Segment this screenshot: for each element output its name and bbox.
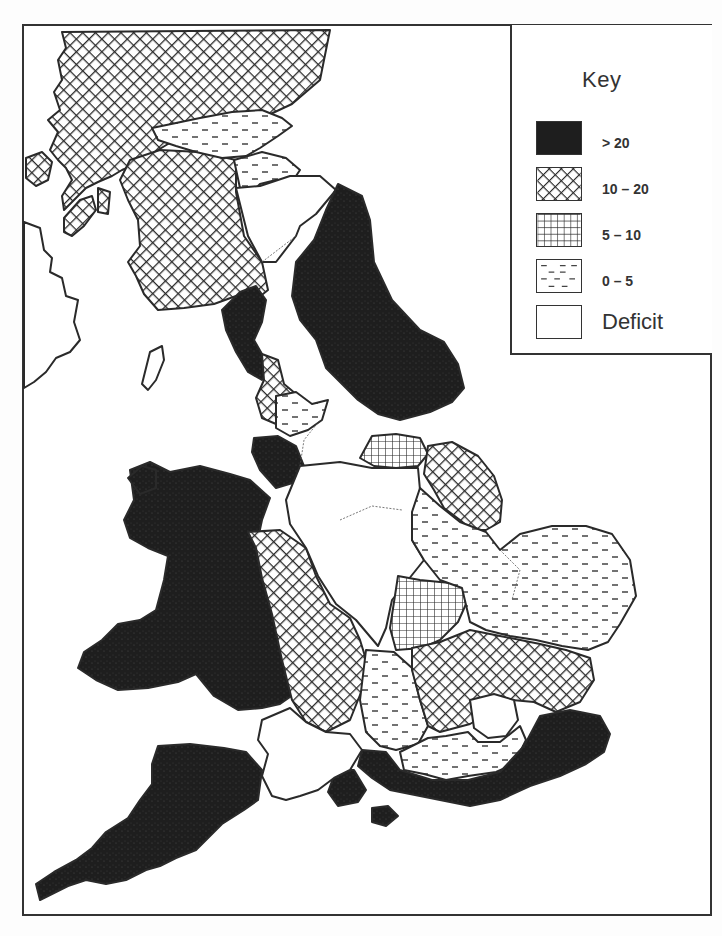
key-label: Deficit: [602, 309, 663, 335]
region-north-east-yorkshire: [292, 184, 464, 420]
swatch-grid-icon: [536, 213, 582, 247]
key-label: 5 – 10: [602, 227, 641, 243]
swatch-blank-icon: [536, 305, 582, 339]
region-greater-manchester: [276, 392, 328, 436]
region-south-west: [36, 744, 262, 900]
swatch-solid-dark-icon: [536, 121, 582, 155]
key-label: 10 – 20: [602, 181, 649, 197]
key-title: Key: [582, 67, 621, 93]
key-item-deficit: Deficit: [536, 305, 706, 345]
key-label: > 20: [602, 135, 630, 151]
key-item-0-5: 0 – 5: [536, 259, 706, 299]
region-greater-london: [470, 694, 518, 738]
key-label: 0 – 5: [602, 273, 633, 289]
region-western-isles: [26, 152, 52, 186]
key-item-5-10: 5 – 10: [536, 213, 706, 253]
region-northern-ireland: [24, 222, 80, 388]
region-humberside: [360, 434, 428, 468]
key-item-10-20: 10 – 20: [536, 167, 706, 207]
swatch-dashes-icon: [536, 259, 582, 293]
region-isle-of-man: [142, 346, 164, 390]
key-item-gt20: > 20: [536, 121, 706, 161]
map-key: Key > 20 10 – 20 5 – 10 0 – 5 Deficit: [510, 25, 712, 355]
region-isle-of-wight: [372, 806, 398, 826]
swatch-crosshatch-icon: [536, 167, 582, 201]
